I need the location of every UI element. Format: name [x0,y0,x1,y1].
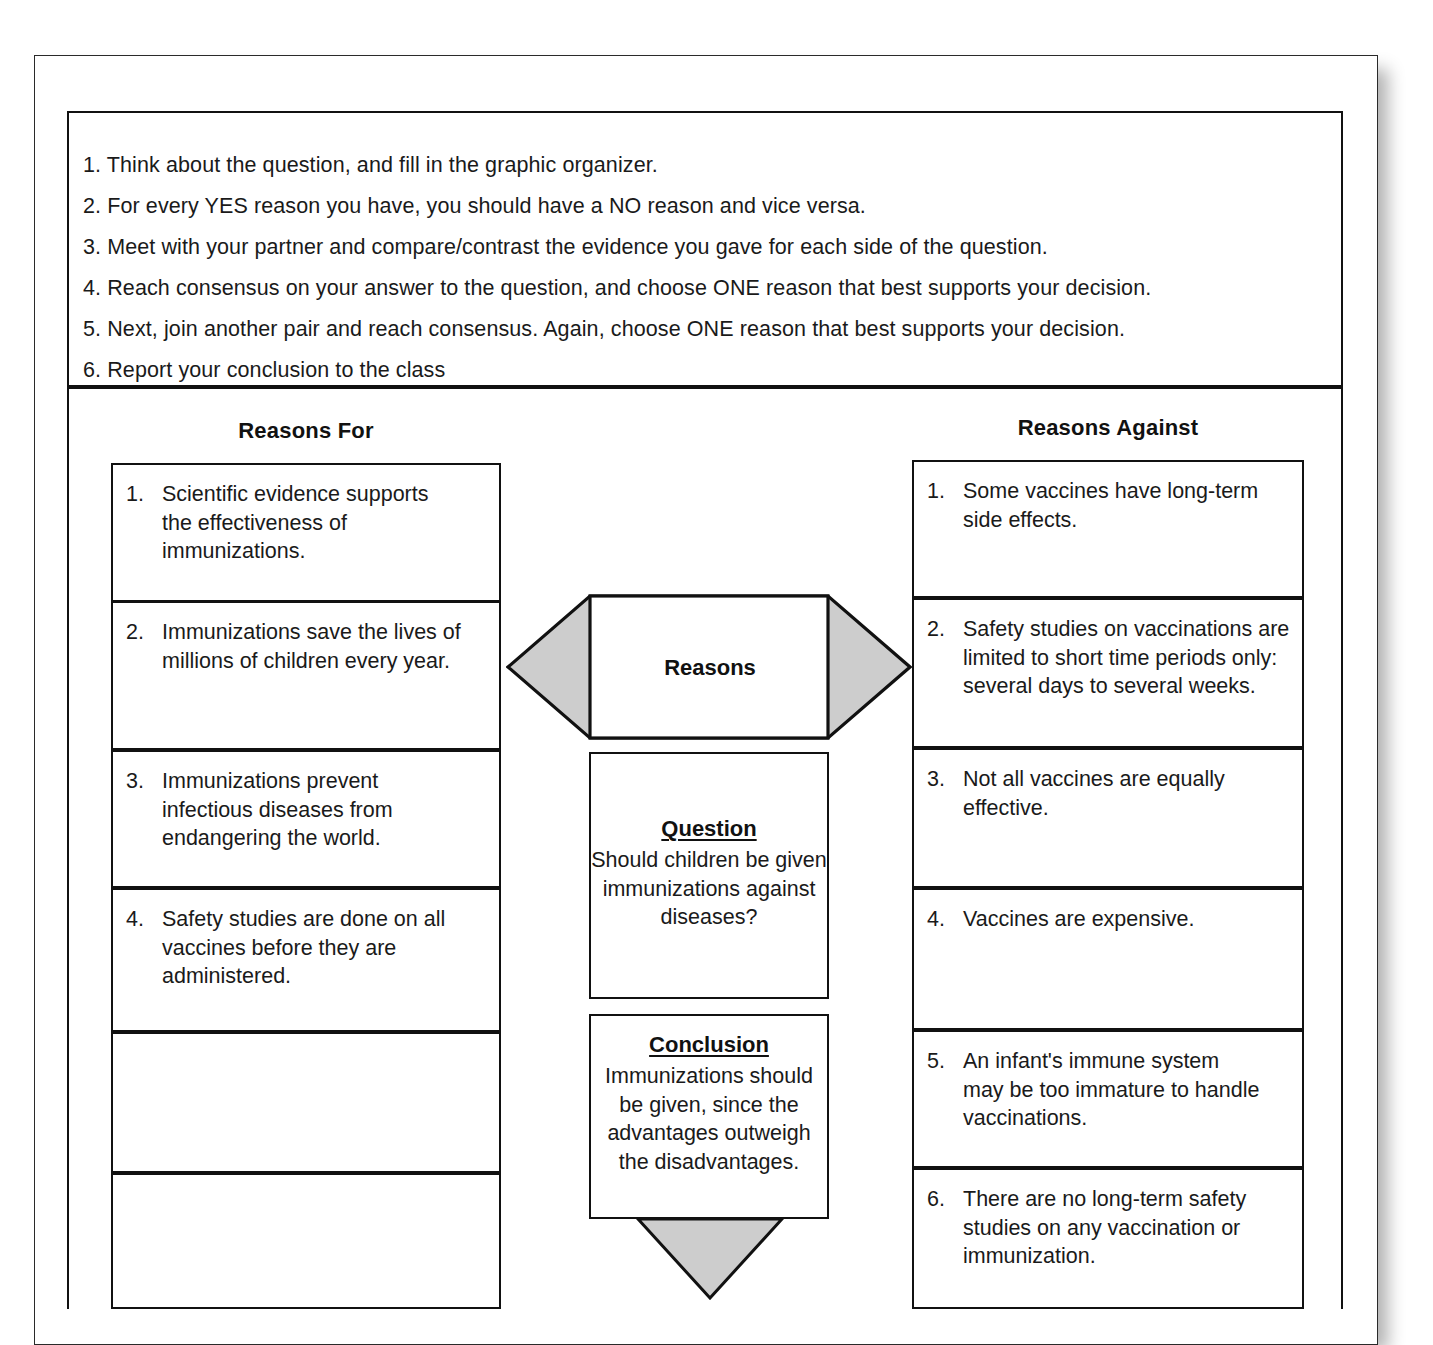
reason-text: Immunizations prevent infectious disease… [162,767,462,853]
conclusion-box[interactable]: Conclusion Immunizations should be given… [589,1014,829,1219]
reason-text: Some vaccines have long-term side effect… [963,477,1263,534]
question-title: Question [591,816,827,842]
instruction-line: 5. Next, join another pair and reach con… [83,309,1341,350]
instruction-line: 3. Meet with your partner and compare/co… [83,227,1341,268]
reason-number: 1. [126,480,162,566]
reasons-for-heading: Reasons For [111,418,501,444]
reason-against-box-5[interactable]: 5. An infant's immune system may be too … [912,1030,1304,1168]
reason-for-box-6[interactable] [111,1173,501,1309]
instructions-panel: 1. Think about the question, and fill in… [67,111,1343,387]
reason-text: Vaccines are expensive. [963,905,1294,934]
reason-number: 4. [126,905,162,991]
reason-number: 5. [927,1047,963,1133]
reason-for-box-4[interactable]: 4. Safety studies are done on all vaccin… [111,888,501,1032]
reason-against-box-1[interactable]: 1. Some vaccines have long-term side eff… [912,460,1304,598]
reason-against-box-3[interactable]: 3. Not all vaccines are equally effectiv… [912,748,1304,888]
instruction-line: 2. For every YES reason you have, you sh… [83,186,1341,227]
down-arrow-icon [636,1218,784,1300]
reason-number: 2. [927,615,963,701]
reason-text: There are no long-term safety studies on… [963,1185,1294,1271]
reason-against-box-2[interactable]: 2. Safety studies on vaccinations are li… [912,598,1304,748]
reason-against-box-6[interactable]: 6. There are no long-term safety studies… [912,1168,1304,1309]
reason-for-box-2[interactable]: 2. Immunizations save the lives of milli… [111,601,501,750]
question-text: Should children be given immunizations a… [591,846,827,932]
reason-text: Not all vaccines are equally effective. [963,765,1294,822]
reason-against-box-4[interactable]: 4. Vaccines are expensive. [912,888,1304,1030]
instruction-line: 6. Report your conclusion to the class [83,350,1341,391]
reason-number: 3. [927,765,963,822]
instruction-line: 1. Think about the question, and fill in… [83,145,1341,186]
reason-for-box-5[interactable] [111,1032,501,1173]
question-box[interactable]: Question Should children be given immuni… [589,752,829,999]
reason-text: Immunizations save the lives of millions… [162,618,462,675]
reason-number: 6. [927,1185,963,1271]
reason-number: 3. [126,767,162,853]
instruction-line: 4. Reach consensus on your answer to the… [83,268,1341,309]
reason-number: 1. [927,477,963,534]
down-triangle-shape [638,1219,782,1298]
reason-text: An infant's immune system may be too imm… [963,1047,1263,1133]
reason-for-box-1[interactable]: 1. Scientific evidence supports the effe… [111,463,501,602]
reasons-against-heading: Reasons Against [912,415,1304,441]
reason-for-box-3[interactable]: 3. Immunizations prevent infectious dise… [111,750,501,888]
conclusion-text: Immunizations should be given, since the… [591,1062,827,1176]
reason-text: Scientific evidence supports the effecti… [162,480,462,566]
reasons-label: Reasons [590,655,830,681]
reason-number: 2. [126,618,162,675]
reason-text: Safety studies are done on all vaccines … [162,905,491,991]
reason-number: 4. [927,905,963,934]
reason-text: Safety studies on vaccinations are limit… [963,615,1294,701]
conclusion-title: Conclusion [591,1032,827,1058]
